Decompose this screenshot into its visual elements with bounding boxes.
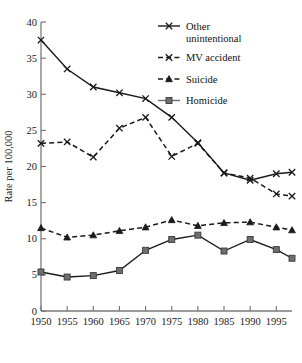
x-tick-label: 1980 [187, 316, 208, 327]
series-line [41, 40, 292, 180]
y-tick-label: 5 [32, 269, 37, 280]
marker-x [195, 140, 201, 146]
series-line [41, 117, 292, 196]
marker-square [116, 268, 122, 274]
y-tick-label: 10 [27, 233, 38, 244]
y-tick-label: 25 [27, 125, 38, 136]
chart-container: 0510152025303540Rate per 100,00019501955… [0, 0, 302, 363]
legend-item-mv-accident[interactable]: MV accident [158, 52, 240, 63]
marker-square [289, 255, 295, 261]
marker-square [169, 236, 175, 242]
legend-label: Suicide [186, 74, 218, 85]
marker-square [247, 236, 253, 242]
marker-square [64, 274, 70, 280]
marker-square [221, 248, 227, 254]
x-tick-label: 1950 [31, 316, 52, 327]
marker-square [166, 98, 172, 104]
legend-label: Homicide [186, 95, 228, 106]
marker-square [273, 247, 279, 253]
marker-triangle [168, 217, 175, 223]
x-tick-label: 1965 [109, 316, 130, 327]
series-line [41, 220, 292, 237]
marker-triangle [38, 225, 45, 231]
x-tick-label: 1955 [57, 316, 78, 327]
marker-square [38, 269, 44, 275]
legend-item-other-unintentional[interactable]: Otherunintentional [158, 21, 241, 44]
series-line [41, 235, 292, 277]
y-tick-label: 0 [32, 306, 37, 317]
marker-x [142, 114, 148, 120]
y-tick-label: 35 [27, 53, 38, 64]
marker-triangle [247, 219, 254, 225]
marker-x [64, 139, 70, 145]
marker-triangle [289, 227, 296, 233]
marker-square [143, 247, 149, 253]
series-homicide [38, 232, 295, 280]
marker-x [289, 193, 295, 199]
x-tick-label: 1975 [161, 316, 182, 327]
y-tick-label: 30 [27, 89, 38, 100]
x-tick-label: 1990 [240, 316, 261, 327]
legend-label-line2: unintentional [186, 33, 241, 44]
marker-triangle [273, 224, 280, 230]
x-tick-label: 1970 [135, 316, 156, 327]
y-tick-label: 20 [27, 161, 38, 172]
marker-x [64, 66, 70, 72]
x-tick-label: 1985 [214, 316, 235, 327]
marker-x [169, 114, 175, 120]
line-chart: 0510152025303540Rate per 100,00019501955… [0, 0, 302, 363]
series-suicide [38, 217, 296, 240]
marker-square [90, 273, 96, 279]
legend-item-suicide[interactable]: Suicide [158, 74, 218, 85]
legend: OtherunintentionalMV accidentSuicideHomi… [158, 21, 241, 107]
legend-label: Other [186, 21, 210, 32]
y-tick-label: 15 [27, 197, 38, 208]
y-axis-label: Rate per 100,000 [3, 130, 14, 202]
marker-x [90, 154, 96, 160]
series-mv-accident [38, 114, 295, 199]
series-other-unintentional [38, 37, 295, 184]
x-tick-label: 1995 [266, 316, 287, 327]
legend-item-homicide[interactable]: Homicide [158, 95, 228, 106]
legend-label: MV accident [186, 52, 240, 63]
marker-x [169, 153, 175, 159]
x-tick-label: 1960 [83, 316, 104, 327]
marker-square [195, 232, 201, 238]
marker-x [116, 125, 122, 131]
y-tick-label: 40 [27, 17, 38, 28]
